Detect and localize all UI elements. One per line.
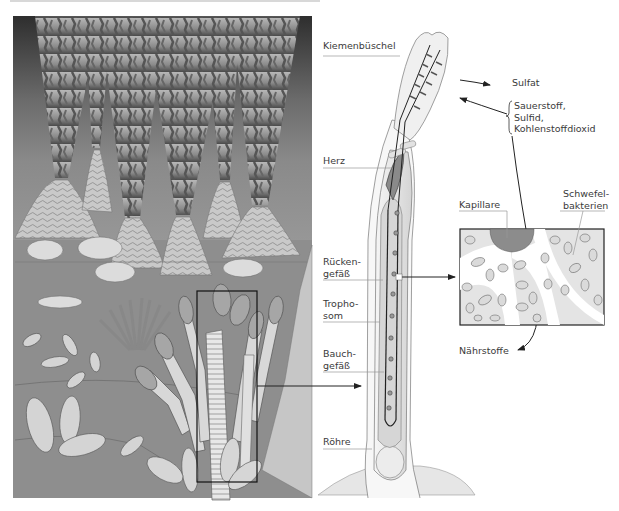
label-schwefelbakterien: Schwefel- bakterien	[563, 188, 609, 211]
label-herz: Herz	[323, 155, 345, 167]
vent-scene-illustration	[13, 16, 312, 500]
tissue-detail-box	[460, 229, 604, 325]
input-brace	[506, 101, 512, 134]
label-nahrstoffe: Nährstoffe	[459, 345, 509, 357]
label-inputs: Sauerstoff, Sulfid, Kohlenstoffdioxid	[514, 100, 596, 135]
label-rohre: Röhre	[323, 436, 351, 448]
label-trophosom: Tropho- som	[323, 298, 358, 321]
label-kapillare: Kapillare	[459, 199, 500, 211]
sulfat-arrow	[460, 80, 490, 85]
gill-plume	[394, 32, 448, 140]
label-bauchgefass: Bauch- gefäß	[323, 348, 356, 371]
label-sulfat: Sulfat	[512, 77, 540, 89]
label-kiemenbuschel: Kiemenbüschel	[323, 40, 396, 52]
inputs-arrow	[460, 98, 507, 114]
label-ruckengefass: Rücken- gefäß	[323, 256, 361, 279]
